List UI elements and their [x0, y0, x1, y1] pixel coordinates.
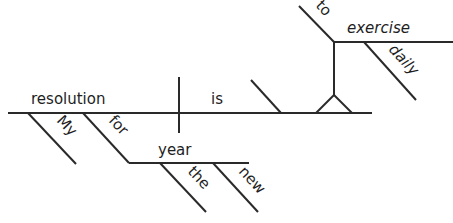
pedestal-leg-left — [316, 95, 334, 113]
word-my: My — [53, 111, 81, 139]
word-for: for — [105, 111, 133, 139]
predicate-slant — [251, 80, 281, 113]
word-to: to — [312, 0, 335, 20]
word-daily: daily — [385, 40, 423, 79]
sentence-diagram: resolution is exercise year to daily My … — [0, 0, 453, 223]
word-exercise: exercise — [347, 19, 410, 37]
word-resolution: resolution — [31, 90, 105, 108]
word-year: year — [158, 141, 192, 159]
word-is: is — [211, 90, 223, 108]
pedestal-leg-right — [334, 95, 352, 113]
word-the: the — [184, 162, 214, 192]
